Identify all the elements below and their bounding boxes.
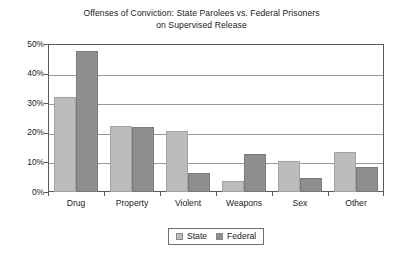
x-axis: DrugPropertyViolentWeaponsSexOther [48, 198, 384, 212]
chart-legend: StateFederal [168, 228, 264, 245]
x-axis-tick-mark [104, 192, 105, 196]
bar-group [278, 44, 322, 192]
bar-federal [188, 173, 210, 192]
x-axis-tick-label: Sex [272, 198, 328, 209]
bar-federal [300, 178, 322, 192]
legend-swatch-icon [176, 233, 183, 240]
x-axis-tick-label: Property [104, 198, 160, 209]
bar-group [222, 44, 266, 192]
bar-federal [244, 154, 266, 192]
x-axis-tick-label: Weapons [216, 198, 272, 209]
bar-federal [76, 51, 98, 192]
bar-group [166, 44, 210, 192]
x-axis-tick-mark [216, 192, 217, 196]
legend-item[interactable]: State [176, 232, 207, 241]
x-axis-tick-mark [328, 192, 329, 196]
x-axis-tick-label: Drug [48, 198, 104, 209]
bar-state [54, 97, 76, 192]
y-axis-tick-label: 30% [4, 99, 44, 108]
bar-state [278, 161, 300, 192]
y-axis-tick-label: 40% [4, 69, 44, 78]
y-axis-tick-label: 20% [4, 128, 44, 137]
legend-label: State [187, 232, 207, 241]
y-axis-tick-label: 50% [4, 40, 44, 49]
chart-title-line-1: Offenses of Conviction: State Parolees v… [83, 8, 319, 18]
chart-title: Offenses of Conviction: State Parolees v… [0, 8, 403, 31]
x-axis-ticks [48, 192, 384, 197]
x-axis-tick-mark [272, 192, 273, 196]
bar-state [166, 131, 188, 192]
bar-federal [132, 127, 154, 192]
x-axis-tick-mark [48, 192, 49, 196]
legend-swatch-icon [216, 233, 223, 240]
bar-group [54, 44, 98, 192]
y-axis-tick-label: 0% [4, 188, 44, 197]
bar-state [222, 181, 244, 192]
bar-group [334, 44, 378, 192]
legend-label: Federal [227, 232, 256, 241]
x-axis-tick-mark [383, 192, 384, 196]
chart-title-line-2: on Supervised Release [0, 20, 403, 32]
bar-state [110, 126, 132, 192]
bar-state [334, 152, 356, 192]
bar-federal [356, 167, 378, 192]
x-axis-tick-label: Violent [160, 198, 216, 209]
y-axis: 0%10%20%30%40%50% [0, 44, 44, 192]
x-axis-tick-label: Other [328, 198, 384, 209]
bars-layer [48, 44, 384, 192]
bar-chart: Offenses of Conviction: State Parolees v… [0, 0, 403, 261]
y-axis-tick-label: 10% [4, 158, 44, 167]
legend-item[interactable]: Federal [216, 232, 256, 241]
bar-group [110, 44, 154, 192]
x-axis-tick-mark [160, 192, 161, 196]
